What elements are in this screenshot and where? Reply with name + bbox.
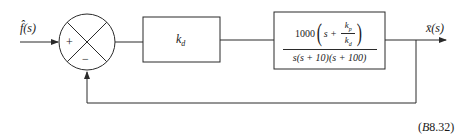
right-paren: ): [357, 20, 362, 46]
gain-ratio-denominator: kd: [345, 35, 352, 47]
plus-sign: +: [66, 36, 73, 48]
fraction-bar: [283, 49, 377, 50]
plant-denominator: s(s + 10)(s + 100): [293, 52, 367, 63]
figure-label: (B8.32): [418, 121, 454, 133]
kd-subscript: d: [349, 40, 352, 46]
block-diagram-canvas: [0, 0, 467, 137]
numerator-var: s: [324, 28, 328, 39]
gain-ratio-numerator: kp: [345, 20, 352, 32]
denominator-rest: (s + 10)(s + 100): [297, 52, 367, 63]
controller-gain-subscript: d: [181, 39, 185, 48]
output-signal-label: x̄(s): [426, 22, 444, 34]
input-signal-label: f̂(s): [20, 22, 36, 34]
input-signal-argument: (s): [23, 21, 36, 35]
minus-sign: −: [82, 53, 89, 65]
gain-ratio: kp kd: [341, 20, 355, 47]
plant-numerator: 1000 ( s + kp kd ): [295, 18, 364, 48]
kp-subscript: p: [349, 26, 352, 32]
plant-transfer-function: 1000 ( s + kp kd ) s(s + 10)(s + 100): [274, 12, 385, 69]
left-paren: (: [317, 20, 322, 46]
numerator-coefficient: 1000: [295, 28, 315, 39]
figure-label-number: 8.32): [429, 120, 454, 134]
gain-ratio-bar: [341, 33, 355, 34]
output-signal-argument: (s): [431, 21, 444, 35]
numerator-op: +: [331, 28, 337, 39]
controller-gain-label: kd: [176, 33, 185, 48]
